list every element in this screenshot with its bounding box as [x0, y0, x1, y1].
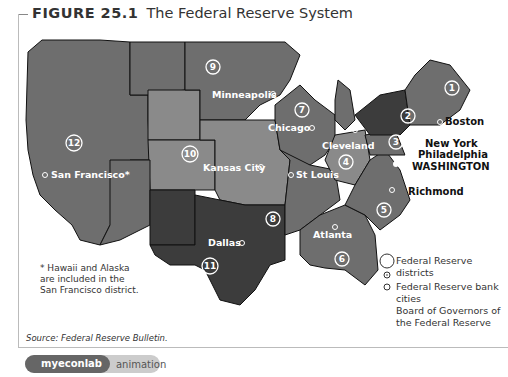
district-12-east	[130, 42, 185, 95]
legend-item-districts: Federal Reserve districts	[378, 255, 508, 279]
hawaii-alaska-note: * Hawaii and Alaska are included in the …	[40, 263, 140, 296]
svg-text:3: 3	[393, 137, 399, 147]
svg-text:5: 5	[381, 205, 387, 215]
city-label-newyork: New York	[425, 138, 478, 149]
svg-text:10: 10	[184, 149, 197, 159]
svg-text:6: 6	[339, 254, 345, 264]
district-7-michigan	[335, 80, 355, 130]
bank-city-dot-newyork	[418, 141, 423, 146]
svg-text:9: 9	[210, 62, 216, 72]
capital-label-washington: WASHINGTON	[412, 161, 490, 172]
city-label-richmond: Richmond	[408, 186, 464, 197]
city-label-philadelphia: Philadelphia	[418, 149, 488, 160]
source-note: Source: Federal Reserve Bulletin.	[26, 333, 168, 343]
city-label-sanfrancisco: San Francisco*	[51, 169, 130, 180]
svg-text:7: 7	[299, 105, 305, 115]
svg-text:12: 12	[68, 138, 81, 148]
svg-text:4: 4	[343, 157, 349, 167]
board-of-governors-dot-washington	[393, 161, 399, 167]
city-label-stlouis: St Louis	[296, 169, 339, 180]
animation-label: animation	[116, 359, 166, 370]
district-10-wyoming	[148, 90, 200, 140]
city-label-dallas: Dallas	[208, 237, 241, 248]
legend-item-board: Board of Governors of the Federal Reserv…	[378, 305, 506, 329]
city-label-kansascity: Kansas City	[203, 162, 266, 173]
myeconlab-logo: myeconlab	[25, 355, 110, 373]
legend-item-bank-cities: Federal Reserve bank cities	[378, 281, 508, 305]
city-label-minneapolis: Minneapolis	[212, 89, 277, 100]
district-11-newmexico	[150, 190, 195, 245]
svg-text:1: 1	[449, 83, 455, 93]
svg-text:2: 2	[405, 111, 411, 121]
myeconlab-animation-badge[interactable]: myeconlab animation	[25, 355, 160, 373]
city-label-chicago: Chicago	[268, 122, 310, 133]
map-legend: Federal Reserve districts Federal Reserv…	[378, 255, 508, 329]
city-label-atlanta: Atlanta	[313, 229, 352, 240]
city-label-boston: Boston	[445, 116, 484, 127]
svg-text:8: 8	[270, 214, 276, 224]
city-label-cleveland: Cleveland	[322, 140, 375, 151]
svg-text:11: 11	[204, 261, 217, 271]
bank-city-dot-philadelphia	[406, 151, 411, 156]
